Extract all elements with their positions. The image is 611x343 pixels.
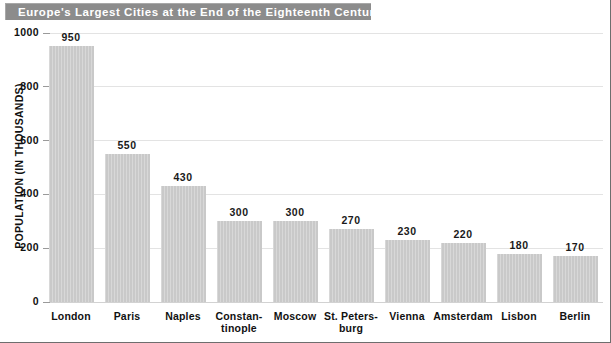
y-axis-title: POPULATION (IN THOUSANDS): [13, 66, 25, 266]
bar-paris[interactable]: [105, 154, 150, 302]
y-tick-label-1000: 1000: [0, 26, 39, 38]
x-tick-label: Berlin: [543, 310, 608, 322]
y-tick-label-0: 0: [0, 295, 39, 307]
bar-value-label: 220: [435, 228, 492, 240]
bar-value-label: 950: [43, 31, 100, 43]
bar-vienna[interactable]: [385, 240, 430, 302]
chart-title: Europe's Largest Cities at the End of th…: [18, 6, 382, 18]
bar-value-label: 430: [155, 171, 212, 183]
y-tick-label-200: 200: [0, 241, 39, 253]
bar-moscow[interactable]: [273, 221, 318, 302]
chart-figure: Europe's Largest Cities at the End of th…: [0, 0, 611, 343]
x-tick-label-line2: burg: [319, 322, 384, 334]
bar-naples[interactable]: [161, 186, 206, 302]
gridline-800: [43, 86, 603, 87]
bar-value-label: 230: [379, 225, 436, 237]
bar-value-label: 170: [547, 241, 604, 253]
x-tick-label-line1: Berlin: [543, 310, 608, 322]
bar-stpetersburg[interactable]: [329, 229, 374, 302]
bar-berlin[interactable]: [553, 256, 598, 302]
bar-value-label: 300: [267, 206, 324, 218]
bar-lisbon[interactable]: [497, 254, 542, 302]
y-tick-label-400: 400: [0, 187, 39, 199]
chart-title-banner: Europe's Largest Cities at the End of th…: [5, 3, 371, 20]
bar-value-label: 300: [211, 206, 268, 218]
bar-value-label: 180: [491, 239, 548, 251]
y-tick-label-600: 600: [0, 134, 39, 146]
bar-amsterdam[interactable]: [441, 243, 486, 302]
gridline-1000: [43, 33, 603, 34]
y-tick-label-800: 800: [0, 80, 39, 92]
x-tick-label-line2: tinople: [207, 322, 272, 334]
plot-area: [43, 33, 603, 302]
bar-london[interactable]: [49, 46, 94, 302]
bar-constantinople[interactable]: [217, 221, 262, 302]
bar-value-label: 550: [99, 139, 156, 151]
bar-value-label: 270: [323, 214, 380, 226]
